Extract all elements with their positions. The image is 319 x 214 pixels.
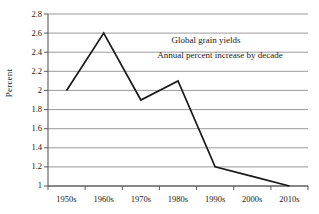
y-tick-label-2.8: 2.8 (10, 9, 42, 19)
x-axis (48, 186, 308, 190)
y-tick-label-1.0: 1 (10, 180, 42, 190)
x-tick-label-1960s: 1960s (85, 194, 122, 204)
y-tick-label-1.2: 1.2 (10, 161, 42, 171)
y-axis (44, 14, 48, 186)
y-tick-label-1.8: 1.8 (10, 104, 42, 114)
x-tick-label-1970s: 1970s (122, 194, 159, 204)
y-tick-label-2.0: 2 (10, 85, 42, 95)
x-tick-label-2000s: 2000s (234, 194, 271, 204)
x-tick-label-1990s: 1990s (197, 194, 234, 204)
y-tick-label-2.6: 2.6 (10, 28, 42, 38)
chart-container: Percent 2.8 2.6 2.4 2.2 2 1.8 1.6 1.4 1.… (0, 0, 319, 214)
x-tick-label-1950s: 1950s (48, 194, 85, 204)
chart-annotation-secondary: Annual percent increase by decade (131, 50, 309, 60)
chart-annotation-primary: Global grain yields (131, 35, 281, 45)
y-tick-label-2.4: 2.4 (10, 47, 42, 57)
line-chart-plot (0, 0, 319, 214)
x-tick-label-1980s: 1980s (159, 194, 196, 204)
y-tick-label-1.6: 1.6 (10, 123, 42, 133)
y-tick-label-2.2: 2.2 (10, 66, 42, 76)
y-tick-label-1.4: 1.4 (10, 142, 42, 152)
x-tick-label-2010s: 2010s (271, 194, 308, 204)
